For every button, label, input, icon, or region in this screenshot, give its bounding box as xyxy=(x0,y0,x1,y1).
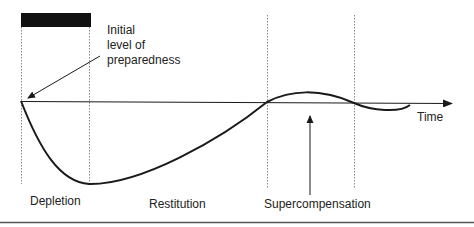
annotation-line-3: preparedness xyxy=(107,53,180,67)
preparedness-curve xyxy=(21,92,410,184)
load-period-bar xyxy=(21,13,91,27)
phase-label-supercompensation: Supercompensation xyxy=(264,197,371,211)
annotation-arrow xyxy=(28,56,100,98)
annotation-line-2: level of xyxy=(107,38,146,52)
annotation-line-1: Initial xyxy=(107,23,135,37)
phase-label-depletion: Depletion xyxy=(30,194,81,208)
supercompensation-diagram: Initial level of preparedness Time Deple… xyxy=(0,0,474,227)
phase-label-restitution: Restitution xyxy=(149,197,206,211)
time-axis-label: Time xyxy=(417,110,444,124)
time-axis xyxy=(21,102,452,104)
